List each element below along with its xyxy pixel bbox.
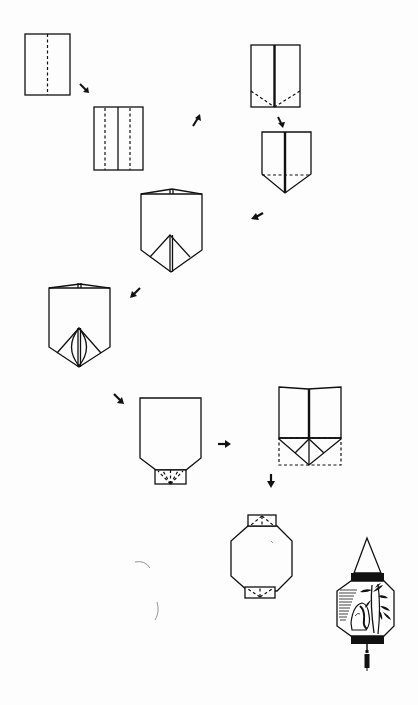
- step-10-finished-lantern: [337, 538, 394, 671]
- origami-diagram: [0, 0, 418, 705]
- arrow-down-icon: [278, 117, 285, 128]
- step-8-shape: [279, 387, 341, 465]
- step-3-shape: [251, 45, 300, 107]
- step-6-shape: [49, 283, 110, 367]
- step-5-shape: [141, 189, 202, 272]
- step-2-rectangle: [94, 107, 143, 170]
- arrow-down-left-icon: [130, 288, 140, 298]
- arrow-down-left-icon: [251, 213, 263, 220]
- arrow-right-icon: [218, 440, 231, 448]
- arrow-down-right-icon: [114, 394, 124, 404]
- arrow-up-right-icon: [193, 114, 201, 126]
- arrow-down-right-icon: [80, 84, 89, 93]
- arrow-down-icon: [267, 474, 275, 488]
- step-7-shape: [140, 398, 201, 484]
- step-4-shape: [262, 132, 311, 193]
- diagram-page: [0, 0, 418, 705]
- step-9-lantern-body: [231, 515, 292, 598]
- step-1-rectangle: [25, 34, 70, 95]
- stray-pencil-marks: [135, 562, 158, 620]
